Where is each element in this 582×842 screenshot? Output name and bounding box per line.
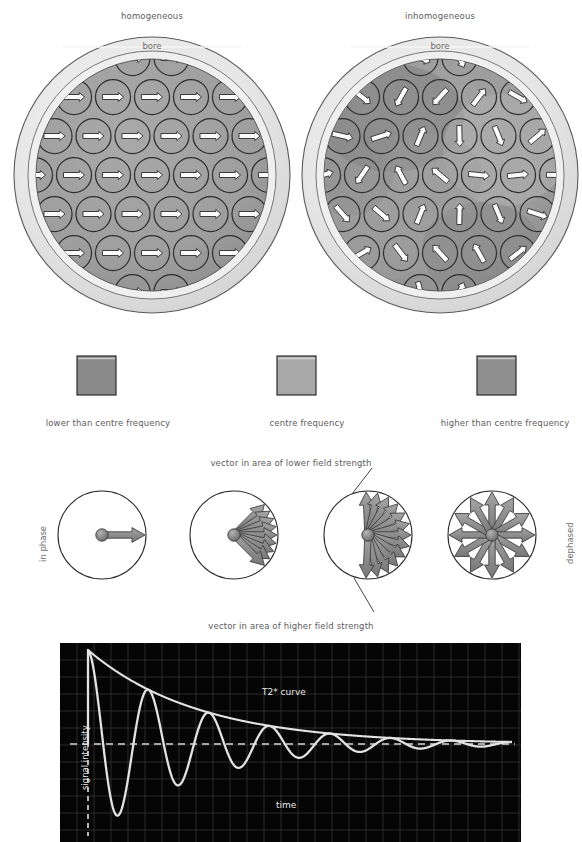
t2-star-graph	[60, 643, 521, 842]
phase-circle-fully-dephased	[448, 491, 536, 579]
phase-diagram-group	[58, 491, 536, 579]
phase-circle-in-phase	[58, 491, 146, 579]
graph-ylabel-signal-intensity: signal intensity	[80, 725, 90, 790]
vector-origin-ball	[362, 529, 374, 541]
diagram-page: homogeneous bore inhomogeneous bore lowe…	[0, 0, 582, 842]
frequency-legend-label-centre: centre frequency	[270, 418, 345, 428]
leader-line-higher-field	[354, 578, 374, 612]
vector-origin-ball	[96, 529, 108, 541]
phase-label-dephased: dephased	[565, 522, 575, 564]
vector-origin-ball	[228, 529, 240, 541]
frequency-swatch-lower	[77, 356, 116, 395]
frequency-legend-label-lower: lower than centre frequency	[46, 418, 171, 428]
frequency-swatch-centre	[277, 356, 316, 395]
bore-label-homogeneous: bore	[142, 41, 161, 51]
magnet-inhomogeneous	[302, 37, 578, 313]
graph-xlabel-time: time	[276, 800, 296, 810]
magnet-label-inhomogeneous: inhomogeneous	[405, 11, 475, 21]
phase-label-in-phase: in phase	[38, 526, 48, 562]
graph-background	[60, 643, 521, 842]
annotation-lower-field-strength: vector in area of lower field strength	[210, 458, 371, 468]
graph-annotation-t2-curve: T2* curve	[262, 687, 306, 697]
magnet-homogeneous	[14, 37, 290, 313]
vector-origin-ball	[486, 529, 498, 541]
frequency-swatch-higher	[477, 356, 516, 395]
phase-circle-more-dephase	[324, 491, 412, 579]
bore-label-inhomogeneous: bore	[430, 41, 449, 51]
phase-circle-slight-dephase	[190, 491, 278, 579]
frequency-legend-boxes	[77, 356, 516, 395]
annotation-higher-field-strength: vector in area of higher field strength	[208, 621, 373, 631]
leader-line-lower-field	[352, 468, 372, 494]
magnet-label-homogeneous: homogeneous	[121, 11, 183, 21]
frequency-legend-label-higher: higher than centre frequency	[441, 418, 570, 428]
